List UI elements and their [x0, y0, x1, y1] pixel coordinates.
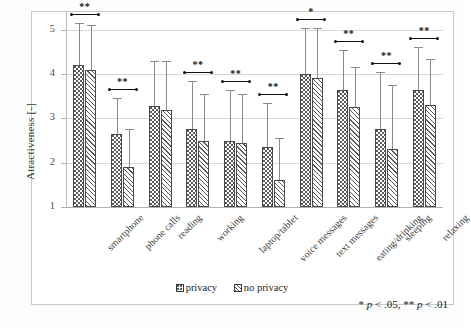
- bar-no-privacy: [198, 141, 209, 207]
- chart-legend: privacy no privacy: [0, 281, 464, 293]
- error-bar: [279, 138, 280, 180]
- significance-bracket: [373, 63, 399, 64]
- x-axis-line: [66, 207, 443, 208]
- error-bar-cap: [339, 50, 348, 51]
- significance-marker: **: [184, 61, 212, 69]
- bracket-end-dot-icon: [97, 13, 100, 16]
- bracket-end-dot-icon: [361, 40, 364, 43]
- legend-item-privacy: privacy: [176, 282, 218, 293]
- significance-bracket: [411, 38, 437, 39]
- error-bar: [242, 94, 243, 143]
- significance-bracket: [72, 14, 98, 15]
- error-bar-cap: [388, 85, 397, 86]
- error-bar: [343, 50, 344, 90]
- error-bar-cap: [301, 28, 310, 29]
- error-bar: [305, 28, 306, 75]
- significance-marker: **: [109, 78, 137, 86]
- error-bar: [380, 72, 381, 130]
- error-bar: [418, 47, 419, 89]
- bar-privacy: [337, 90, 348, 207]
- gridline: [66, 118, 443, 119]
- bar-no-privacy: [312, 78, 323, 207]
- error-bar: [129, 129, 130, 167]
- error-bar-cap: [414, 47, 423, 48]
- error-bar: [230, 90, 231, 141]
- y-tick-label: 4: [33, 67, 55, 78]
- bracket-end-dot-icon: [248, 80, 251, 83]
- error-bar-cap: [125, 129, 134, 130]
- footnote-part-1: *: [359, 298, 367, 310]
- bar-no-privacy: [349, 107, 360, 207]
- error-bar-cap: [200, 94, 209, 95]
- error-bar-cap: [275, 138, 284, 139]
- bracket-end-dot-icon: [70, 13, 73, 16]
- y-tick-label: 2: [33, 156, 55, 167]
- significance-bracket: [260, 94, 286, 95]
- y-axis-line: [66, 12, 67, 208]
- bar-privacy: [262, 147, 273, 207]
- significance-bracket: [336, 41, 362, 42]
- y-tick-label: 1: [33, 200, 55, 211]
- error-bar-cap: [238, 94, 247, 95]
- error-bar: [267, 103, 268, 147]
- bracket-end-dot-icon: [183, 71, 186, 74]
- error-bar: [355, 67, 356, 107]
- error-bar-cap: [376, 72, 385, 73]
- error-bar-cap: [113, 98, 122, 99]
- error-bar: [192, 81, 193, 130]
- error-bar: [317, 28, 318, 79]
- bar-no-privacy: [274, 180, 285, 207]
- significance-marker: **: [222, 70, 250, 78]
- legend-swatch-privacy-icon: [176, 284, 184, 292]
- bar-privacy: [149, 106, 160, 207]
- error-bar-cap: [150, 61, 159, 62]
- significance-bracket: [185, 72, 211, 73]
- bar-no-privacy: [123, 167, 134, 207]
- bar-privacy: [300, 74, 311, 207]
- bar-privacy: [73, 65, 84, 207]
- error-bar: [154, 61, 155, 107]
- bar-privacy: [224, 141, 235, 207]
- significance-bracket: [298, 19, 324, 20]
- error-bar-cap: [351, 67, 360, 68]
- error-bar: [166, 61, 167, 110]
- gridline: [66, 74, 443, 75]
- error-bar-cap: [426, 59, 435, 60]
- legend-swatch-no-privacy-icon: [234, 284, 242, 292]
- significance-footnote: * p < .05, ** p < .01: [359, 298, 448, 310]
- bar-no-privacy: [85, 70, 96, 207]
- footnote-part-3: < .01: [423, 298, 448, 310]
- bracket-end-dot-icon: [221, 80, 224, 83]
- significance-marker: **: [372, 52, 400, 60]
- error-bar: [204, 94, 205, 141]
- error-bar: [392, 85, 393, 149]
- error-bar-cap: [87, 25, 96, 26]
- error-bar-cap: [188, 81, 197, 82]
- bar-no-privacy: [161, 110, 172, 208]
- gridline: [66, 30, 443, 31]
- bar-no-privacy: [425, 105, 436, 207]
- bar-no-privacy: [236, 143, 247, 207]
- bracket-end-dot-icon: [210, 71, 213, 74]
- error-bar-cap: [263, 103, 272, 104]
- bracket-end-dot-icon: [108, 88, 111, 91]
- significance-marker: **: [71, 3, 99, 11]
- error-bar: [79, 23, 80, 65]
- significance-marker: **: [410, 27, 438, 35]
- legend-label-privacy: privacy: [186, 282, 218, 293]
- error-bar-cap: [313, 28, 322, 29]
- significance-bracket: [223, 81, 249, 82]
- error-bar: [91, 25, 92, 69]
- error-bar: [430, 59, 431, 106]
- bar-privacy: [375, 129, 386, 207]
- bracket-end-dot-icon: [135, 88, 138, 91]
- bar-privacy: [111, 134, 122, 207]
- y-tick-label: 3: [33, 111, 55, 122]
- significance-marker: *: [297, 8, 325, 16]
- y-tick-label: 5: [33, 23, 55, 34]
- significance-marker: **: [335, 30, 363, 38]
- error-bar-cap: [162, 61, 171, 62]
- bracket-end-dot-icon: [334, 40, 337, 43]
- significance-marker: **: [259, 83, 287, 91]
